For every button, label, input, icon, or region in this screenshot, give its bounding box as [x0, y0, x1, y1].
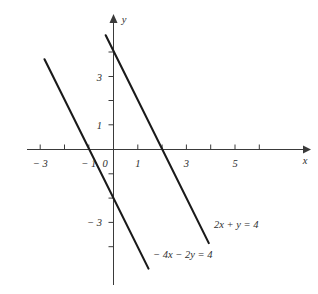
y-tick-label--3: − 3	[87, 217, 102, 228]
y-axis-name-label: y	[121, 14, 127, 25]
y-axis-arrow-icon	[110, 14, 118, 23]
graph-figure: − 3 − 1 0 1 3 5 3 1 − 3 x y 2x + y = 4 −…	[0, 0, 318, 294]
x-axis-arrow-icon	[303, 146, 311, 154]
x-tick-label--3: − 3	[33, 158, 48, 169]
equation-label-line-2: − 4x − 2y = 4	[153, 249, 213, 260]
y-tick-label-3: 3	[96, 72, 102, 83]
y-tick-label-1: 1	[97, 120, 102, 131]
equation-label-line-1: 2x + y = 4	[214, 219, 259, 230]
x-tick-label--1: − 1	[81, 158, 96, 169]
x-axis	[27, 146, 311, 154]
x-tick-label-1: 1	[135, 158, 140, 169]
x-tick-label-3: 3	[183, 158, 189, 169]
coordinate-plane-plot: − 3 − 1 0 1 3 5 3 1 − 3 x y 2x + y = 4 −…	[0, 0, 318, 294]
x-axis-ticks	[40, 145, 259, 150]
x-tick-label-5: 5	[232, 158, 237, 169]
origin-label: 0	[102, 158, 108, 169]
x-axis-name-label: x	[302, 155, 308, 166]
